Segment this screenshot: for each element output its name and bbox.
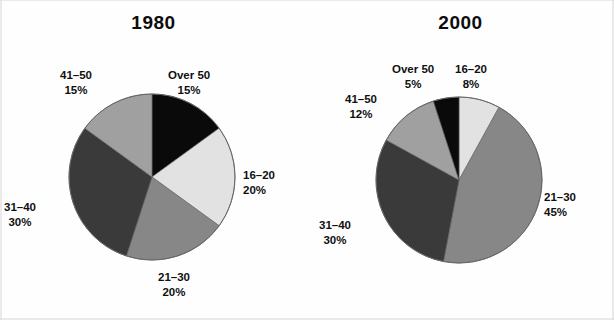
slice-label-21-30-1980: 21–30 20% [158, 270, 190, 299]
pie-slice-41-50 [386, 101, 459, 180]
slice-label-name: Over 50 [392, 62, 434, 77]
pie-slice-41-50 [85, 94, 152, 177]
slice-label-value: 30% [4, 215, 36, 230]
slice-label-41-50-2000: 41–50 12% [345, 92, 377, 121]
slice-label-name: 41–50 [345, 92, 377, 107]
slice-label-value: 20% [243, 183, 275, 198]
pie-slice-21-30 [443, 107, 542, 263]
slice-label-over-50-2000: Over 50 5% [392, 62, 434, 91]
slice-label-21-30-2000: 21–30 45% [544, 190, 576, 219]
slice-label-value: 20% [158, 285, 190, 300]
slice-label-value: 30% [319, 233, 351, 248]
slice-label-16-20-1980: 16–20 20% [243, 168, 275, 197]
pie-svg-2000 [307, 0, 614, 320]
slice-label-value: 15% [168, 83, 210, 98]
pie-outline-1980 [69, 94, 235, 260]
slice-label-value: 8% [455, 77, 487, 92]
pie-2000 [307, 0, 614, 320]
pie-svg-1980 [0, 0, 307, 320]
pie-slice-over-50 [433, 97, 459, 180]
slice-label-16-20-2000: 16–20 8% [455, 62, 487, 91]
slice-label-over-50-1980: Over 50 15% [168, 68, 210, 97]
slice-label-41-50-1980: 41–50 15% [60, 68, 92, 97]
slice-label-31-40-2000: 31–40 30% [319, 218, 351, 247]
pie-slice-16-20 [152, 128, 235, 226]
pie-outline-2000 [376, 97, 542, 263]
pie-slice-21-30 [126, 177, 219, 260]
slice-label-name: 31–40 [319, 218, 351, 233]
scan-edge-top [0, 0, 614, 1]
pie-slice-31-40 [376, 140, 459, 262]
slice-label-value: 15% [60, 83, 92, 98]
slice-label-31-40-1980: 31–40 30% [4, 200, 36, 229]
page-title-2000: 2000 [307, 12, 614, 34]
slice-label-name: 31–40 [4, 200, 36, 215]
pie-slice-over-50 [152, 94, 219, 177]
slice-label-value: 45% [544, 205, 576, 220]
chart-panel-2000: 2000 Over 50 5% 16–20 8% 21–30 45% 31–40… [307, 0, 614, 320]
slice-label-name: Over 50 [168, 68, 210, 83]
slice-label-name: 21–30 [158, 270, 190, 285]
slice-label-name: 16–20 [243, 168, 275, 183]
slice-label-name: 16–20 [455, 62, 487, 77]
scan-edge-left [0, 0, 2, 320]
slice-label-name: 41–50 [60, 68, 92, 83]
pie-chart-figure: 1980 Over 50 15% 16–20 20% 21–30 20% 31–… [0, 0, 614, 320]
page-title-1980: 1980 [0, 12, 307, 34]
chart-panel-1980: 1980 Over 50 15% 16–20 20% 21–30 20% 31–… [0, 0, 307, 320]
slice-label-name: 21–30 [544, 190, 576, 205]
slice-label-value: 5% [392, 77, 434, 92]
pie-slice-16-20 [459, 97, 499, 180]
pie-slice-31-40 [69, 128, 152, 256]
slice-label-value: 12% [345, 107, 377, 122]
pie-1980 [0, 0, 307, 320]
